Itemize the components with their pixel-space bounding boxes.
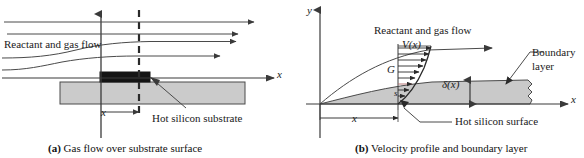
boundary-layer-region [320,80,532,104]
panel-a-x-axis-label: x [277,68,282,80]
panel-a-caption-marker: (a) [48,142,61,154]
hot-surface-leader [404,108,420,122]
panel-a-flow-label: Reactant and gas flow [4,38,101,50]
panel-b-caption-text: Velocity profile and boundary layer [371,142,527,154]
panel-b-caption: (b) Velocity profile and boundary layer [355,142,527,154]
panel-b-x-axis-label: x [571,93,576,105]
panel-b-flow-label: Reactant and gas flow [374,24,471,36]
panel-a-drawing [0,0,292,158]
hot-silicon-surface-label: Hot silicon surface [455,115,538,127]
hot-silicon-region [100,72,150,82]
boundary-layer-label-line2: layer [532,60,575,74]
substrate-block [60,82,245,104]
panel-b-caption-marker: (b) [355,142,368,154]
surface-label: s [394,88,398,98]
panel-a-caption: (a) Gas flow over substrate surface [48,142,202,154]
boundary-layer-label: Boundary layer [532,46,575,74]
panel-b-y-axis-label: y [307,4,312,16]
boundary-thickness-label: δ(x) [442,78,459,90]
panel-a-gas-flow: Reactant and gas flow x x Hot silicon su… [0,0,292,158]
figure-container: Reactant and gas flow x x Hot silicon su… [0,0,584,158]
panel-a-caption-text: Gas flow over substrate surface [64,142,203,154]
streamline-4 [2,56,220,70]
boundary-layer-label-line1: Boundary [532,46,575,60]
hot-silicon-substrate-label: Hot silicon substrate [152,112,242,124]
panel-a-x-dimension-label: x [101,106,106,118]
free-stream-velocity-label: V(x) [402,38,421,50]
panel-b-x-dimension-label: x [352,112,357,124]
boundary-layer-leader [506,52,530,84]
gas-label: G [387,63,395,75]
panel-b-velocity-profile: y x Reactant and gas flow V(x) G s δ(x) … [292,0,584,158]
